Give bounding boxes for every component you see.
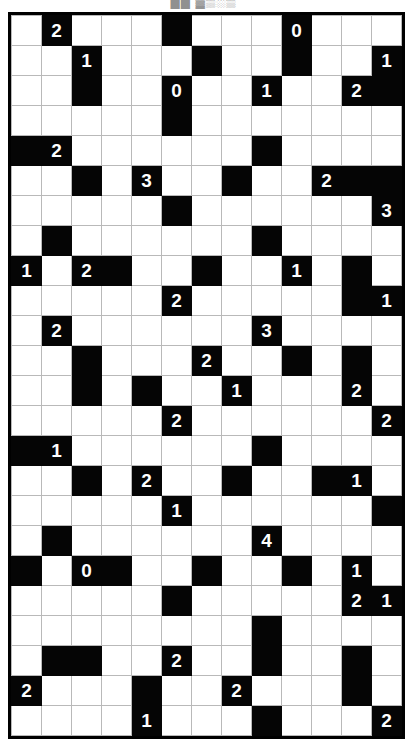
grid-cell-filled[interactable]	[72, 346, 102, 376]
grid-cell-empty[interactable]	[102, 106, 132, 136]
grid-cell-filled[interactable]	[282, 346, 312, 376]
grid-cell-empty[interactable]	[162, 676, 192, 706]
grid-cell-empty[interactable]	[192, 196, 222, 226]
grid-cell-empty[interactable]	[372, 106, 402, 136]
grid-cell-empty[interactable]	[312, 46, 342, 76]
grid-cell-empty[interactable]	[162, 436, 192, 466]
puzzle-grid-body[interactable]: 2011012232312121232122212114012122212	[12, 16, 402, 736]
grid-cell-empty[interactable]	[42, 496, 72, 526]
grid-cell-empty[interactable]	[192, 706, 222, 736]
grid-cell-empty[interactable]	[282, 586, 312, 616]
grid-cell-empty[interactable]	[252, 106, 282, 136]
grid-cell-empty[interactable]	[312, 16, 342, 46]
grid-cell-empty[interactable]	[162, 556, 192, 586]
grid-cell-empty[interactable]	[132, 196, 162, 226]
grid-cell-empty[interactable]	[12, 16, 42, 46]
grid-cell-empty[interactable]	[342, 106, 372, 136]
grid-cell-empty[interactable]	[222, 646, 252, 676]
grid-cell-empty[interactable]	[282, 646, 312, 676]
grid-cell-empty[interactable]	[372, 436, 402, 466]
grid-cell-empty[interactable]	[42, 586, 72, 616]
grid-cell-empty[interactable]	[312, 646, 342, 676]
grid-cell-empty[interactable]	[132, 136, 162, 166]
grid-cell-filled[interactable]	[342, 646, 372, 676]
grid-cell-empty[interactable]	[222, 316, 252, 346]
grid-cell-filled[interactable]: 2	[192, 346, 222, 376]
grid-cell-empty[interactable]	[372, 316, 402, 346]
grid-cell-empty[interactable]	[282, 496, 312, 526]
grid-cell-empty[interactable]	[192, 646, 222, 676]
grid-cell-empty[interactable]	[312, 286, 342, 316]
grid-cell-empty[interactable]	[12, 166, 42, 196]
grid-cell-empty[interactable]	[312, 106, 342, 136]
grid-cell-empty[interactable]	[282, 166, 312, 196]
grid-cell-filled[interactable]: 1	[372, 46, 402, 76]
grid-cell-filled[interactable]: 2	[162, 646, 192, 676]
grid-cell-empty[interactable]	[312, 196, 342, 226]
grid-cell-empty[interactable]	[222, 16, 252, 46]
grid-cell-empty[interactable]	[312, 256, 342, 286]
grid-cell-filled[interactable]	[192, 556, 222, 586]
grid-cell-empty[interactable]	[312, 76, 342, 106]
grid-cell-empty[interactable]	[162, 616, 192, 646]
grid-cell-empty[interactable]	[42, 106, 72, 136]
grid-cell-empty[interactable]	[132, 346, 162, 376]
grid-cell-empty[interactable]	[12, 286, 42, 316]
grid-cell-empty[interactable]	[192, 286, 222, 316]
grid-cell-empty[interactable]	[252, 376, 282, 406]
grid-cell-empty[interactable]	[222, 46, 252, 76]
grid-cell-empty[interactable]	[252, 496, 282, 526]
grid-cell-filled[interactable]	[252, 706, 282, 736]
grid-cell-empty[interactable]	[72, 676, 102, 706]
grid-cell-empty[interactable]	[102, 466, 132, 496]
grid-cell-empty[interactable]	[132, 496, 162, 526]
grid-cell-filled[interactable]: 1	[372, 586, 402, 616]
grid-cell-empty[interactable]	[162, 706, 192, 736]
grid-cell-empty[interactable]	[222, 526, 252, 556]
grid-cell-empty[interactable]	[282, 466, 312, 496]
grid-cell-empty[interactable]	[282, 676, 312, 706]
grid-cell-filled[interactable]	[192, 256, 222, 286]
grid-cell-filled[interactable]	[252, 436, 282, 466]
grid-cell-filled[interactable]: 4	[252, 526, 282, 556]
grid-cell-empty[interactable]	[372, 646, 402, 676]
grid-cell-filled[interactable]	[42, 226, 72, 256]
grid-cell-filled[interactable]: 1	[12, 256, 42, 286]
grid-cell-filled[interactable]	[72, 646, 102, 676]
grid-cell-empty[interactable]	[312, 616, 342, 646]
grid-cell-filled[interactable]: 0	[282, 16, 312, 46]
grid-cell-empty[interactable]	[282, 226, 312, 256]
grid-cell-empty[interactable]	[372, 256, 402, 286]
grid-cell-empty[interactable]	[222, 346, 252, 376]
grid-cell-filled[interactable]	[342, 166, 372, 196]
grid-cell-empty[interactable]	[102, 676, 132, 706]
grid-cell-empty[interactable]	[282, 196, 312, 226]
grid-cell-empty[interactable]	[72, 286, 102, 316]
grid-cell-empty[interactable]	[42, 376, 72, 406]
grid-cell-empty[interactable]	[102, 76, 132, 106]
grid-cell-empty[interactable]	[72, 316, 102, 346]
grid-cell-filled[interactable]: 2	[342, 586, 372, 616]
grid-cell-empty[interactable]	[12, 46, 42, 76]
grid-cell-empty[interactable]	[372, 346, 402, 376]
grid-cell-filled[interactable]	[252, 226, 282, 256]
grid-cell-empty[interactable]	[72, 136, 102, 166]
grid-cell-empty[interactable]	[132, 106, 162, 136]
grid-cell-empty[interactable]	[102, 496, 132, 526]
grid-cell-filled[interactable]: 0	[162, 76, 192, 106]
grid-cell-filled[interactable]: 1	[252, 76, 282, 106]
grid-cell-filled[interactable]	[132, 676, 162, 706]
grid-cell-empty[interactable]	[222, 196, 252, 226]
grid-cell-empty[interactable]	[102, 406, 132, 436]
grid-cell-empty[interactable]	[102, 166, 132, 196]
grid-cell-empty[interactable]	[102, 706, 132, 736]
grid-cell-filled[interactable]: 1	[72, 46, 102, 76]
grid-cell-empty[interactable]	[222, 436, 252, 466]
grid-cell-filled[interactable]	[282, 46, 312, 76]
grid-cell-empty[interactable]	[42, 256, 72, 286]
grid-cell-empty[interactable]	[42, 706, 72, 736]
grid-cell-empty[interactable]	[102, 616, 132, 646]
grid-cell-empty[interactable]	[132, 646, 162, 676]
grid-cell-filled[interactable]	[372, 166, 402, 196]
grid-cell-empty[interactable]	[42, 616, 72, 646]
